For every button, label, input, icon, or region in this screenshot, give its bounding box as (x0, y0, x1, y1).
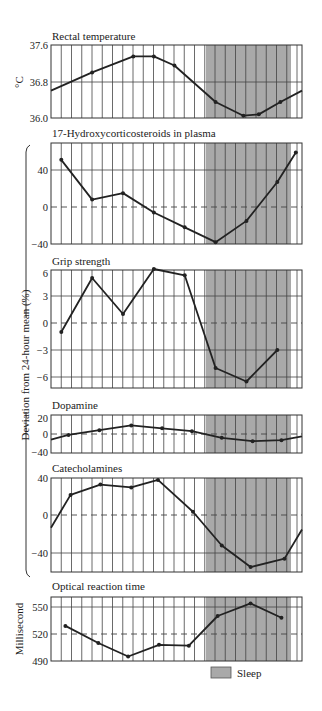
data-point (90, 70, 94, 74)
data-point (59, 158, 63, 162)
y-tick-label: 520 (32, 629, 48, 640)
data-point (121, 191, 125, 195)
data-point (157, 643, 161, 647)
data-point (156, 478, 160, 482)
data-point (191, 510, 195, 514)
data-point (69, 493, 73, 497)
data-point (187, 644, 191, 648)
y-tick-label: 36.8 (30, 77, 48, 88)
panel-dopamine: Dopamine200−40 (32, 399, 302, 458)
data-point (249, 565, 253, 569)
data-point (129, 485, 133, 489)
y-tick-label: −40 (32, 548, 48, 559)
y-tick-label: 550 (32, 602, 48, 613)
data-point (251, 439, 255, 443)
sleep-legend-swatch (211, 667, 231, 678)
sleep-shade (206, 415, 291, 453)
data-point (244, 380, 248, 384)
panel-rectal-temperature: Rectal temperature37.636.836.0°C (13, 30, 302, 124)
data-point (214, 240, 218, 244)
data-point (59, 330, 63, 334)
y-tick-label: 37.6 (30, 40, 48, 51)
data-point (279, 616, 283, 620)
y-tick-label: 490 (32, 656, 48, 667)
y-tick-label: −40 (32, 447, 48, 458)
data-point (96, 641, 100, 645)
data-point (220, 436, 224, 440)
data-point (183, 225, 187, 229)
panel-title: Dopamine (52, 399, 98, 411)
y-tick-label: 0 (43, 318, 48, 329)
shared-y-axis-label: Deviation from 24-hour mean (%) (19, 289, 32, 440)
sleep-shade (206, 45, 291, 118)
data-point (129, 423, 133, 427)
panel-title: Optical reaction time (52, 580, 145, 592)
data-point (97, 428, 101, 432)
data-point (249, 601, 253, 605)
y-tick-label: 40 (38, 165, 49, 176)
y-tick-label: −6 (37, 372, 48, 383)
y-axis-label: Millisecond (13, 602, 25, 655)
data-point (244, 219, 248, 223)
panel-title: Rectal temperature (52, 30, 135, 42)
data-point (278, 100, 282, 104)
panel-title: Catecholamines (52, 462, 122, 474)
panel-17-hydroxycorticosteroids-in-plasma: 17-Hydroxycorticosteroids in plasma400−4… (32, 127, 302, 250)
y-axis-label: °C (13, 76, 25, 88)
data-point (131, 54, 135, 58)
data-point (294, 150, 298, 154)
data-point (172, 64, 176, 68)
data-point (216, 614, 220, 618)
y-tick-label: −40 (32, 239, 48, 250)
y-tick-label: 36.0 (30, 113, 48, 124)
data-point (220, 544, 224, 548)
data-point (152, 211, 156, 215)
panel-title: Grip strength (52, 255, 111, 267)
data-point (183, 273, 187, 277)
data-point (126, 655, 130, 659)
y-tick-label: 0 (43, 510, 48, 521)
panel-optical-reaction-time: Optical reaction time550520490Millisecon… (13, 580, 302, 667)
sleep-shade (206, 143, 291, 244)
data-point (214, 100, 218, 104)
data-point (121, 312, 125, 316)
panels: Rectal temperature37.636.836.0°C17-Hydro… (13, 30, 302, 667)
legend: Sleep (211, 667, 262, 679)
data-point (190, 429, 194, 433)
panel-catecholamines: Catecholamines400−40 (32, 462, 302, 572)
shared-y-axis-bracket: Deviation from 24-hour mean (%) (19, 145, 32, 577)
data-point (90, 276, 94, 280)
y-tick-label: −3 (37, 345, 48, 356)
sleep-shade (206, 478, 291, 572)
data-point (283, 557, 287, 561)
data-point (275, 180, 279, 184)
sleep-legend-label: Sleep (237, 667, 262, 679)
y-tick-label: 0 (43, 202, 48, 213)
data-point (152, 54, 156, 58)
panel-grip-strength: Grip strength630−3−6 (37, 255, 302, 388)
y-tick-label: 40 (38, 473, 49, 484)
y-tick-label: 6 (43, 268, 48, 279)
data-point (275, 348, 279, 352)
data-point (63, 624, 67, 628)
data-point (279, 438, 283, 442)
data-point (98, 483, 102, 487)
circadian-rhythm-figure: Rectal temperature37.636.836.0°C17-Hydro… (0, 0, 322, 711)
data-point (214, 366, 218, 370)
y-tick-label: 3 (43, 291, 48, 302)
y-tick-label: 0 (43, 429, 48, 440)
data-point (160, 426, 164, 430)
data-point (257, 112, 261, 116)
data-point (241, 114, 245, 118)
panel-title: 17-Hydroxycorticosteroids in plasma (52, 127, 216, 139)
y-tick-label: 20 (38, 413, 49, 424)
data-point (152, 267, 156, 271)
data-point (90, 198, 94, 202)
data-point (66, 433, 70, 437)
